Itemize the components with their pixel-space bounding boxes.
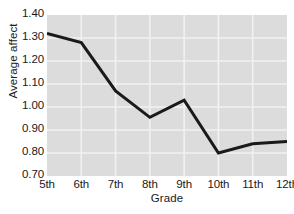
y-tick-label: 0.80 [0,145,44,157]
y-tick-label: 1.40 [0,7,44,19]
x-tick-label: 8th [142,178,158,190]
x-tick-label: 10th [207,178,229,190]
y-tick-label: 0.90 [0,122,44,134]
x-tick-label: 7th [108,178,124,190]
y-tick-label: 1.30 [0,30,44,42]
plot-svg [47,15,287,176]
data-series-line [47,33,287,153]
x-tick-label: 12th [276,178,294,190]
x-tick-label: 9th [176,178,192,190]
plot-area [47,15,287,176]
x-tick-label: 11th [242,178,263,190]
x-axis-title: Grade [47,192,287,204]
y-tick-label: 1.10 [0,76,44,88]
y-tick-label: 0.70 [0,168,44,180]
y-tick-label: 1.20 [0,53,44,65]
x-tick-label: 5th [39,178,55,190]
y-tick-label: 1.00 [0,99,44,111]
gridlines [47,15,287,176]
line-chart: Average affect 1.401.301.201.101.000.900… [0,0,294,214]
y-axis-tick-labels: 1.401.301.201.101.000.900.800.70 [0,0,44,214]
x-tick-label: 6th [73,178,89,190]
